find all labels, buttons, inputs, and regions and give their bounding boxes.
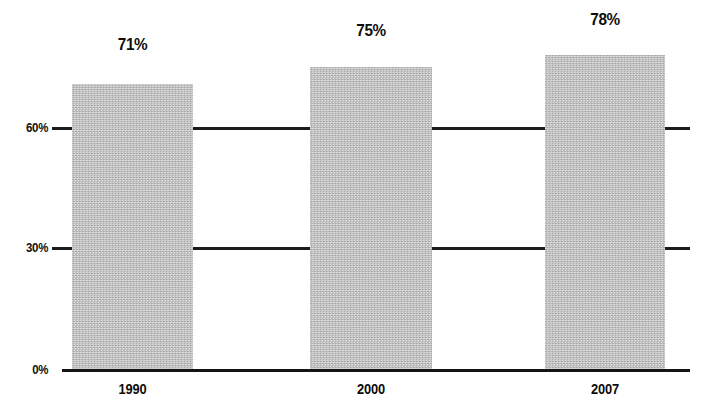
gridline-30-tick-right: [664, 247, 690, 250]
gridline-60-segment-gap2: [431, 127, 547, 130]
gridline-60-tick-right: [664, 127, 690, 130]
category-label-2007: 2007: [550, 381, 660, 397]
bar-1990: [72, 84, 193, 369]
bar-2000: [310, 67, 432, 369]
ytick-label-0-wrap: 0%: [0, 362, 48, 376]
gridline-30-segment-gap1: [192, 247, 312, 250]
ytick-label-60: 60%: [26, 120, 48, 135]
ytick-label-0: 0%: [32, 362, 48, 377]
value-label-1990: 71%: [78, 35, 187, 55]
value-label-2007: 78%: [551, 10, 659, 30]
ytick-label-30: 30%: [26, 240, 48, 255]
plot-area: 60% 30% 0% 71% 75% 78% 1990 2000 2007: [0, 0, 710, 416]
ytick-label-60-wrap: 60%: [0, 120, 48, 134]
category-label-1990: 1990: [77, 381, 188, 397]
value-label-2000: 75%: [316, 21, 426, 41]
ytick-label-30-wrap: 30%: [0, 240, 48, 254]
bar-chart: 60% 30% 0% 71% 75% 78% 1990 2000 2007: [0, 0, 710, 416]
gridline-60-segment-gap1: [192, 127, 312, 130]
category-label-2000: 2000: [315, 381, 427, 397]
bar-2007: [545, 55, 665, 369]
axis-baseline-zero: [62, 369, 690, 372]
gridline-30-segment-gap2: [431, 247, 547, 250]
ytick-dash-60: [52, 127, 65, 130]
ytick-dash-30: [52, 247, 65, 250]
